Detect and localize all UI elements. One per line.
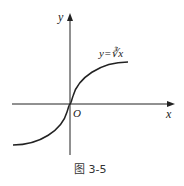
y-axis-label: y: [57, 10, 64, 24]
curve-label: y=∛x: [98, 46, 123, 59]
x-axis-label: x: [165, 107, 172, 121]
graph-svg: y x O y=∛x 图 3-5: [0, 0, 184, 186]
cube-root-figure: y x O y=∛x 图 3-5: [0, 0, 184, 186]
y-axis-arrow-icon: [67, 13, 73, 21]
figure-caption: 图 3-5: [74, 163, 106, 176]
origin-label: O: [73, 107, 81, 119]
